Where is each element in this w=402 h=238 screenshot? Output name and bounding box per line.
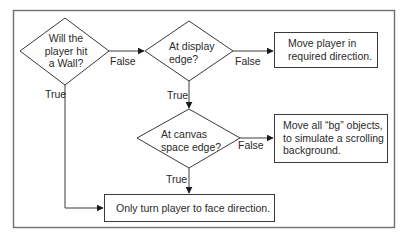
- process-line: Only turn player to face direction.: [116, 202, 276, 215]
- decision-canvas-edge-text: At canvas space edge?: [161, 128, 241, 153]
- edge-label-d1-true: True: [45, 88, 66, 101]
- process-move-bg-text: Move all “bg” objects, to simulate a scr…: [283, 119, 387, 157]
- process-line: background.: [283, 144, 387, 157]
- process-line: to simulate a scrolling: [283, 132, 387, 145]
- process-line: Move player in: [288, 37, 378, 50]
- edge-label-d2-false: False: [235, 55, 261, 68]
- flowchart-canvas: Will the player hit a Wall? At display e…: [0, 0, 402, 238]
- edge-d1-true: [65, 85, 103, 208]
- process-line: Move all “bg” objects,: [283, 119, 387, 132]
- decision-line: a Wall?: [36, 57, 96, 70]
- decision-line: At display: [169, 40, 229, 53]
- decision-line: Will the: [36, 32, 96, 45]
- decision-line: edge?: [169, 53, 229, 66]
- decision-line: player hit: [36, 45, 96, 58]
- decision-display-edge-text: At display edge?: [169, 40, 229, 65]
- decision-wall-hit-text: Will the player hit a Wall?: [36, 32, 96, 70]
- decision-line: space edge?: [161, 141, 241, 154]
- process-move-player-text: Move player in required direction.: [288, 37, 378, 62]
- edge-label-d3-true: True: [166, 173, 187, 186]
- process-line: required direction.: [288, 50, 378, 63]
- edge-label-d3-false: False: [238, 139, 264, 152]
- edge-label-d2-true: True: [167, 89, 188, 102]
- process-turn-only-text: Only turn player to face direction.: [116, 202, 276, 215]
- edge-label-d1-false: False: [110, 55, 136, 68]
- decision-line: At canvas: [161, 128, 241, 141]
